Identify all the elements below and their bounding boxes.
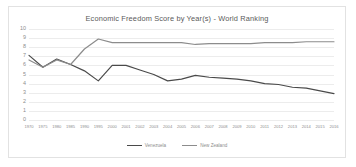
x-axis-tick-label: 1980 xyxy=(52,125,61,129)
x-axis: 1970197519801985199019952000200120022003… xyxy=(29,125,334,135)
chart-legend: VenezuelaNew Zealand xyxy=(9,143,345,148)
x-axis-tick-label: 1985 xyxy=(66,125,75,129)
chart-container: Economic Freedom Score by Year(s) - Worl… xyxy=(8,6,346,158)
x-axis-tick-label: 2006 xyxy=(191,125,200,129)
x-axis-tick-label: 2011 xyxy=(260,125,269,129)
x-axis-tick-label: 2010 xyxy=(246,125,255,129)
y-axis-tick-label: 2 xyxy=(23,99,26,104)
y-axis: 109876543210 xyxy=(9,29,27,120)
x-axis-tick-label: 2001 xyxy=(121,125,130,129)
x-axis-tick-label: 1995 xyxy=(94,125,103,129)
series-line-venezuela xyxy=(29,55,334,93)
y-axis-tick-label: 0 xyxy=(23,117,26,122)
x-axis-tick-label: 2002 xyxy=(135,125,144,129)
x-axis-tick-label: 2007 xyxy=(205,125,214,129)
legend-label-venezuela: Venezuela xyxy=(145,143,166,148)
legend-swatch-venezuela xyxy=(127,145,142,147)
chart-title: Economic Freedom Score by Year(s) - Worl… xyxy=(9,14,345,23)
y-axis-tick-label: 3 xyxy=(23,90,26,95)
gridline xyxy=(29,120,334,121)
x-axis-tick-label: 2015 xyxy=(316,125,325,129)
x-axis-tick-label: 1975 xyxy=(38,125,47,129)
y-axis-tick-label: 6 xyxy=(23,63,26,68)
y-axis-tick-label: 7 xyxy=(23,54,26,59)
x-axis-tick-label: 2014 xyxy=(302,125,311,129)
y-axis-tick-label: 1 xyxy=(23,108,26,113)
legend-item-new-zealand[interactable]: New Zealand xyxy=(182,143,227,148)
y-axis-tick-label: 9 xyxy=(23,35,26,40)
x-axis-tick-label: 1990 xyxy=(80,125,89,129)
plot-area xyxy=(29,29,334,120)
y-axis-tick-label: 10 xyxy=(20,26,26,31)
legend-item-venezuela[interactable]: Venezuela xyxy=(127,143,166,148)
legend-swatch-new-zealand xyxy=(182,145,197,147)
x-axis-tick-label: 2008 xyxy=(219,125,228,129)
x-axis-tick-label: 2013 xyxy=(288,125,297,129)
x-axis-tick-label: 2000 xyxy=(108,125,117,129)
x-axis-tick-label: 2003 xyxy=(149,125,158,129)
x-axis-tick-label: 2012 xyxy=(274,125,283,129)
x-axis-tick-label: 2016 xyxy=(329,125,338,129)
x-axis-tick-label: 2005 xyxy=(177,125,186,129)
x-axis-tick-label: 2004 xyxy=(163,125,172,129)
x-axis-tick-label: 1970 xyxy=(24,125,33,129)
x-axis-tick-label: 2009 xyxy=(232,125,241,129)
series-line-new-zealand xyxy=(29,39,334,67)
y-axis-tick-label: 5 xyxy=(23,72,26,77)
y-axis-tick-label: 4 xyxy=(23,81,26,86)
y-axis-tick-label: 8 xyxy=(23,44,26,49)
legend-label-new-zealand: New Zealand xyxy=(200,143,227,148)
series-lines xyxy=(29,29,334,120)
